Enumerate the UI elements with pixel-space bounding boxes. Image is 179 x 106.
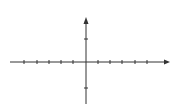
x-arrow-icon bbox=[164, 60, 170, 65]
y-arrow-icon bbox=[84, 17, 89, 24]
plot bbox=[0, 0, 179, 106]
chart bbox=[0, 0, 179, 106]
